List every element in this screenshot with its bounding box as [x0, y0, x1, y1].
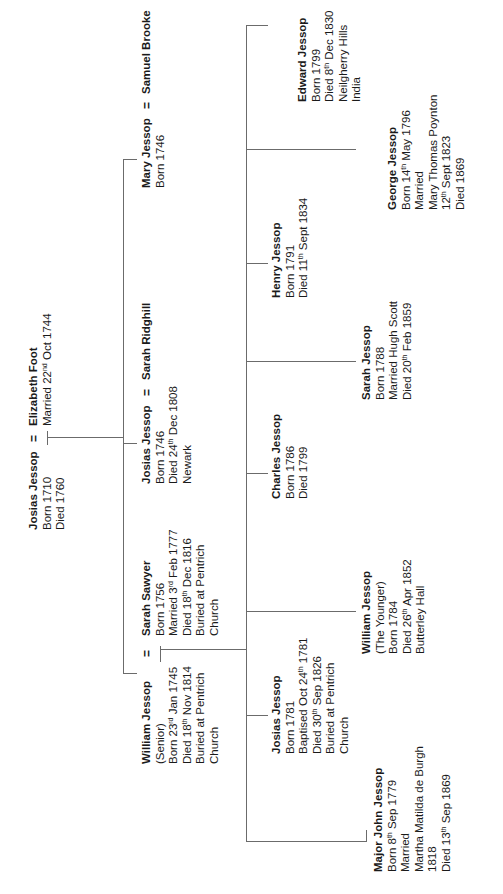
person-detail: Church [208, 666, 222, 764]
person-name: Major John Jessop [372, 746, 386, 872]
child-connector [123, 443, 137, 444]
marriage-symbol: = [140, 102, 154, 109]
person-detail: Baptised Oct 24th 1781 [297, 638, 311, 754]
person-name: Henry Jessop [270, 198, 284, 298]
person-mary-jessop: Mary Jessop Born 1746 [140, 118, 167, 188]
person-name: Josias Jessop [140, 386, 154, 484]
person-detail: Born 1784 [387, 559, 401, 654]
person-detail: Died 20th Feb 1859 [401, 301, 415, 400]
person-detail: Newark [181, 386, 195, 484]
person-detail: Buried at Pentrich [194, 666, 208, 764]
person-detail: Born 1799 [310, 10, 324, 102]
marriage-symbol: = [27, 435, 41, 442]
child-connector [123, 159, 137, 160]
person-detail: Born 1746 [154, 386, 168, 484]
person-detail: 12th Sept 1823 [440, 95, 454, 210]
person-detail: Died 1760 [54, 451, 68, 530]
child-connector [246, 473, 268, 474]
person-detail: (Senior) [154, 666, 168, 764]
person-name: Edward Jessop [296, 10, 310, 102]
person-detail: Church [208, 529, 222, 636]
person-detail: Born 1791 [284, 198, 298, 298]
person-name: Samuel Brooke [140, 10, 154, 94]
person-name: Josias Jessop [27, 451, 41, 530]
person-detail: Born 1788 [374, 301, 388, 400]
person-detail: Died 24th Dec 1808 [167, 386, 181, 484]
person-detail: Married Hugh Scott [387, 301, 401, 400]
person-detail: Died 26th Apr 1852 [401, 559, 415, 654]
person-josias-jessop-junior: Josias Jessop Born 1746 Died 24th Dec 18… [140, 386, 194, 484]
person-george-jessop: George Jessop Born 14th May 1796 Married… [386, 95, 467, 210]
person-detail: Butterley Hall [414, 559, 428, 654]
child-connector [246, 841, 366, 842]
person-detail: Martha Matilda de Burgh [413, 746, 427, 872]
person-name: William Jessop [140, 666, 154, 764]
person-detail: Died 18th Dec 1816 [181, 529, 195, 636]
person-detail: Died 11th Sept 1834 [297, 198, 311, 298]
marriage-symbol: = [140, 389, 154, 396]
person-detail: Died 1869 [454, 95, 468, 210]
person-detail: Born 1710 [41, 451, 55, 530]
person-detail: Born 1781 [284, 638, 298, 754]
child-connector [246, 361, 356, 362]
person-name: Sarah Ridghill [140, 303, 154, 380]
person-detail: Married 3rd Feb 1777 [167, 529, 181, 636]
person-sarah-sawyer: Sarah Sawyer Born 1756 Married 3rd Feb 1… [140, 529, 221, 636]
sibling-bar-generation2 [123, 159, 124, 674]
person-name: Sarah Jessop [360, 301, 374, 400]
person-sarah-ridghill: Sarah Ridghill [140, 303, 154, 380]
person-name: Charles Jessop [270, 414, 284, 499]
person-name: George Jessop [386, 95, 400, 210]
person-detail: Died 8th Dec 1830 [323, 10, 337, 102]
person-detail: Died 18th Nov 1814 [181, 666, 195, 764]
child-connector [366, 830, 367, 842]
person-samuel-brooke: Samuel Brooke [140, 10, 154, 94]
person-name: Josias Jessop [270, 638, 284, 754]
person-detail: Married 22nd Oct 1744 [41, 313, 55, 426]
person-detail: Married [413, 95, 427, 210]
person-william-jessop-younger: William Jessop (The Younger) Born 1784 D… [360, 559, 428, 654]
person-sarah-jessop: Sarah Jessop Born 1788 Married Hugh Scot… [360, 301, 414, 400]
person-detail: Buried at Pentrich [194, 529, 208, 636]
person-detail: Neilgherry Hills [337, 10, 351, 102]
person-josias-jessop-1781: Josias Jessop Born 1781 Baptised Oct 24t… [270, 638, 351, 754]
person-detail: Died 13th Sep 1869 [440, 746, 454, 872]
child-connector [123, 673, 137, 674]
child-connector [246, 715, 268, 716]
person-charles-jessop: Charles Jessop Born 1786 Died 1799 [270, 414, 311, 499]
person-detail: Born 8th Sep 1779 [386, 746, 400, 872]
person-detail: India [350, 10, 364, 102]
person-detail: Married [399, 746, 413, 872]
person-elizabeth-foot: Elizabeth Foot Married 22nd Oct 1744 [27, 313, 54, 426]
marriage-connector [47, 431, 48, 445]
child-connector [246, 149, 356, 150]
child-connector [246, 263, 268, 264]
person-detail: Born 1786 [284, 414, 298, 499]
person-name: Mary Jessop [140, 118, 154, 188]
person-detail: Died 1799 [297, 414, 311, 499]
person-detail: Born 14th May 1796 [400, 95, 414, 210]
person-detail: Church [338, 638, 352, 754]
person-name: William Jessop [360, 559, 374, 654]
person-name: Sarah Sawyer [140, 529, 154, 636]
person-edward-jessop: Edward Jessop Born 1799 Died 8th Dec 183… [296, 10, 364, 102]
person-detail: (The Younger) [374, 559, 388, 654]
person-name: Elizabeth Foot [27, 313, 41, 426]
person-major-john-jessop: Major John Jessop Born 8th Sep 1779 Marr… [372, 746, 453, 872]
person-detail: 1818 [426, 746, 440, 872]
person-william-jessop-senior: William Jessop (Senior) Born 23rd Jan 17… [140, 666, 221, 764]
person-henry-jessop: Henry Jessop Born 1791 Died 11th Sept 18… [270, 198, 311, 298]
child-connector [246, 25, 268, 26]
person-detail: Born 23rd Jan 1745 [167, 666, 181, 764]
person-detail: Buried at Pentrich [324, 638, 338, 754]
child-connector [246, 611, 356, 612]
person-detail: Born 1746 [154, 118, 168, 188]
person-josias-jessop-senior: Josias Jessop Born 1710 Died 1760 [27, 451, 68, 530]
person-detail: Born 1756 [154, 529, 168, 636]
person-detail: Died 30th Sep 1826 [311, 638, 325, 754]
person-detail: Mary Thomas Poynton [427, 95, 441, 210]
descent-connector [48, 437, 123, 438]
descent-connector [161, 649, 246, 650]
marriage-symbol: = [140, 650, 154, 657]
family-tree-diagram: Josias Jessop Born 1710 Died 1760 = Eliz… [0, 0, 503, 894]
